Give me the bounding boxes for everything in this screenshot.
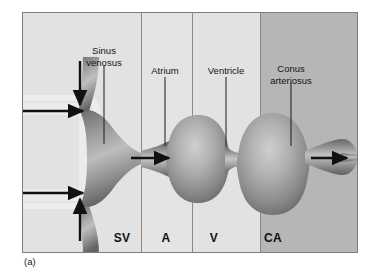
callout-atrium: Atrium [151,65,178,77]
atrium-shape [166,115,230,203]
callout-ventricle-line1: Ventricle [208,65,244,77]
callout-sinus-venosus-line2: venosus [86,57,121,69]
callout-conus-arteriosus-line1: Conus [270,63,312,75]
zone-label-a: A [162,231,171,245]
diagram-canvas [23,13,358,253]
callout-atrium-line1: Atrium [151,65,178,77]
figure-caption: (a) [24,256,36,267]
callout-conus-arteriosus-line2: arteriosus [270,75,312,87]
callout-conus-arteriosus: Conus arteriosus [270,63,312,86]
zone-label-v: V [210,231,218,245]
callout-ventricle: Ventricle [208,65,244,77]
zone-label-ca: CA [264,231,282,245]
figure-root: Sinus venosus Atrium Ventricle Conus art… [0,0,374,270]
callout-sinus-venosus-line1: Sinus [86,45,121,57]
ventricle-shape [237,113,310,215]
callout-sinus-venosus: Sinus venosus [86,45,121,68]
sinus-venosus-shape [79,57,143,253]
zone-label-sv: SV [114,231,131,245]
illustration-frame: Sinus venosus Atrium Ventricle Conus art… [22,12,358,253]
